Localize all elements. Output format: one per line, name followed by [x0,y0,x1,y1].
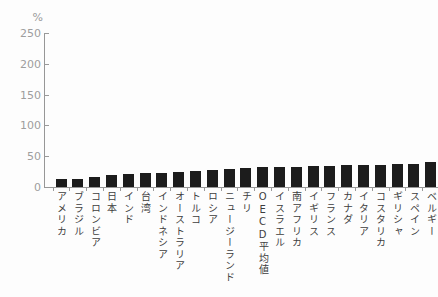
bar [156,173,167,187]
bar [324,166,335,187]
bar-label: 日本 [105,191,118,214]
x-axis-tick [170,188,171,191]
y-axis-tick-label: 250 [0,28,41,39]
x-axis-tick [254,188,255,191]
y-axis-tick [44,64,49,65]
bar-label: イスラエル [273,191,286,249]
bar-label: イギリス [307,191,320,237]
bar [257,167,268,187]
bar-label: コロンビア [88,191,101,249]
bar [358,165,369,187]
y-axis-tick [44,33,49,34]
bar-label: インドネシア [155,191,168,260]
bar-label: カナダ [340,191,353,226]
bar [89,177,100,188]
bar [375,165,386,187]
bar [274,167,285,187]
bar [123,174,134,187]
bar-label: 南アフリカ [290,191,303,249]
bar [408,164,419,187]
bar [224,169,235,187]
x-axis-tick [355,188,356,191]
bar [190,171,201,187]
x-axis-tick [338,188,339,191]
bar [72,179,83,187]
bar-label: ベルギー [424,191,437,237]
bar-chart: % 050100150200250アメリカブラジルコロンビア日本インド台湾インド… [0,0,438,297]
bar-label: アメリカ [55,191,68,237]
y-axis-line [44,33,45,187]
x-axis-tick [288,188,289,191]
y-axis-tick [44,125,49,126]
bar-label: トルコ [189,191,202,226]
x-axis-tick [137,188,138,191]
x-axis-tick [271,188,272,191]
x-axis-tick [204,188,205,191]
x-axis-tick [405,188,406,191]
bar-label: ロシア [206,191,219,226]
bar [106,175,117,187]
bar-label: 台湾 [139,191,152,214]
x-axis-tick [69,188,70,191]
x-axis-tick [389,188,390,191]
x-axis-tick [120,188,121,191]
bar-label: フランス [323,191,336,237]
bar [56,179,67,187]
y-axis-tick-label: 0 [0,182,41,193]
x-axis-tick [422,188,423,191]
bar [341,165,352,187]
bar [291,167,302,187]
bar-label: イタリア [357,191,370,237]
bar [240,168,251,187]
bar-label: スペイン [407,191,420,237]
y-axis-tick [44,156,49,157]
y-axis-tick-label: 200 [0,59,41,70]
bar [140,173,151,187]
bar-label: ギリシャ [391,191,404,237]
bar-label: ブラジル [71,191,84,237]
bar-label: コスタリカ [374,191,387,249]
bar-label: OECD平均値 [256,191,269,276]
bar-label: チリ [239,191,252,214]
bar [425,162,436,187]
bar [207,170,218,187]
x-axis-tick [372,188,373,191]
bar [392,164,403,187]
x-axis-tick [221,188,222,191]
x-axis-tick [187,188,188,191]
x-axis-tick [153,188,154,191]
bar [308,166,319,187]
y-axis-unit-label: % [0,11,43,24]
x-axis-tick [86,188,87,191]
bar [173,172,184,187]
y-axis-tick-label: 150 [0,90,41,101]
y-axis-tick-label: 100 [0,120,41,131]
x-axis-tick [237,188,238,191]
x-axis-tick [321,188,322,191]
bar-label: インド [122,191,135,226]
bar-label: ニュージーランド [223,191,236,283]
y-axis-tick-label: 50 [0,151,41,162]
x-axis-tick [103,188,104,191]
bar-label: オーストラリア [172,191,185,272]
y-axis-tick [44,95,49,96]
x-axis-tick [305,188,306,191]
x-axis-tick [53,188,54,191]
